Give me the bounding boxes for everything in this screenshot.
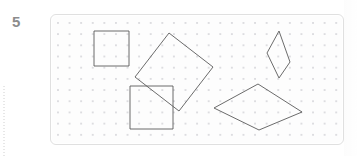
shape-square-top-left <box>94 31 129 66</box>
shape-rhombus-bottom-right <box>214 84 302 130</box>
dot-grid-panel <box>50 14 344 145</box>
question-number: 5 <box>12 14 20 30</box>
shapes-layer <box>51 15 344 145</box>
shape-rotated-square-top-middle <box>135 33 213 111</box>
scan-margin-rule <box>3 86 5 156</box>
shape-rhombus-top-right <box>267 31 290 78</box>
shapes-svg <box>51 15 344 145</box>
shape-square-bottom-left <box>130 86 173 129</box>
page-edge-shadow <box>344 0 360 156</box>
